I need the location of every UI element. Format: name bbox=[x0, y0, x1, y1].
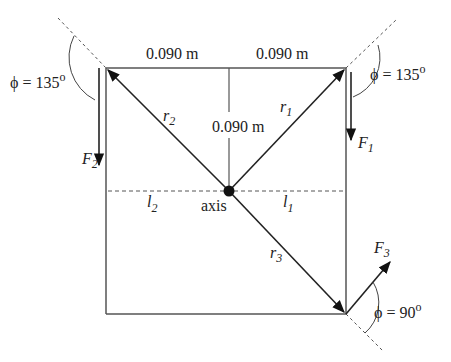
extension-line-top-left bbox=[58, 18, 106, 68]
l1-label: l1 bbox=[283, 193, 293, 215]
r2-label: r2 bbox=[163, 107, 175, 128]
axis-point bbox=[224, 186, 235, 197]
extension-line-top-right bbox=[346, 20, 396, 68]
f1-label: F1 bbox=[357, 134, 374, 155]
torque-diagram: 0.090 m 0.090 m 0.090 m axis r2 r1 r3 F2… bbox=[0, 0, 451, 362]
angle-arc-top-left bbox=[69, 36, 95, 100]
dimension-top-left: 0.090 m bbox=[146, 45, 199, 62]
l2-label: l2 bbox=[147, 193, 157, 215]
dimension-vertical: 0.090 m bbox=[212, 118, 265, 135]
r2-vector bbox=[108, 70, 229, 191]
r3-label: r3 bbox=[270, 244, 282, 265]
phi-top-right-label: ϕ = 135o bbox=[370, 62, 425, 84]
phi-bottom-right-label: ϕ = 90o bbox=[374, 300, 421, 322]
phi-top-left-label: ϕ = 135o bbox=[10, 70, 65, 92]
dimension-top-right: 0.090 m bbox=[256, 45, 309, 62]
r1-label: r1 bbox=[280, 98, 292, 119]
f2-label: F2 bbox=[81, 150, 98, 171]
axis-label: axis bbox=[201, 197, 227, 214]
f3-label: F3 bbox=[373, 239, 390, 260]
